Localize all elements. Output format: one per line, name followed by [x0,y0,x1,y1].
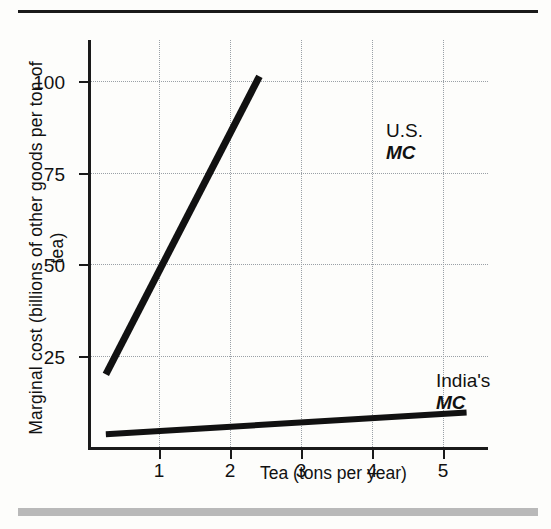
bottom-gray-bar [18,508,538,516]
x-tick-label-1: 1 [154,460,165,482]
figure: Marginal cost (billions of other goods p… [0,0,551,529]
series-lines [88,40,488,450]
x-tick-label-4: 4 [367,460,378,482]
x-tick-5 [443,450,445,459]
x-tick-label-3: 3 [296,460,307,482]
y-tick-75: 75 [79,173,88,175]
y-tick-label-75: 75 [44,164,65,186]
y-tick-label-100: 100 [33,72,65,94]
x-tick-2 [230,450,232,459]
x-tick-label-2: 2 [225,460,236,482]
x-axis-title: Tea (tons per year) [260,463,407,484]
series-label-india-mc: India's MC [436,370,490,414]
y-tick-50: 50 [79,264,88,266]
x-tick-4 [372,450,374,459]
series-label-us-mc: U.S. MC [386,120,423,164]
series-line-us-mc [106,76,260,374]
x-tick-1 [159,450,161,459]
y-tick-label-50: 50 [44,255,65,277]
series-label-india-line2: MC [436,392,490,414]
series-label-us-line1: U.S. [386,120,423,142]
series-label-india-line1: India's [436,370,490,392]
y-tick-25: 25 [79,356,88,358]
x-tick-label-5: 5 [438,460,449,482]
plot-area: 25 50 75 100 1 2 3 4 5 U.S. MC Indi [88,40,488,450]
x-tick-3 [301,450,303,459]
series-label-us-line2: MC [386,142,423,164]
series-line-india-mc [106,412,467,434]
y-axis-title: Marginal cost (billions of other goods p… [26,48,68,448]
y-tick-label-25: 25 [44,347,65,369]
top-divider-rule [18,10,538,13]
y-tick-100: 100 [79,81,88,83]
